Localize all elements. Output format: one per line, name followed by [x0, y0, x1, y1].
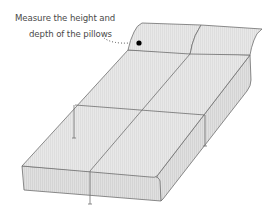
- pillow-left: [128, 23, 201, 54]
- mattress-diagram: Measure the height and depth of the pill…: [0, 0, 274, 212]
- measurement-marker-icon: [136, 40, 141, 45]
- pillow-right: [190, 25, 262, 55]
- annotation-line-2: depth of the pillows: [29, 30, 112, 39]
- annotation-line-1: Measure the height and: [15, 14, 115, 23]
